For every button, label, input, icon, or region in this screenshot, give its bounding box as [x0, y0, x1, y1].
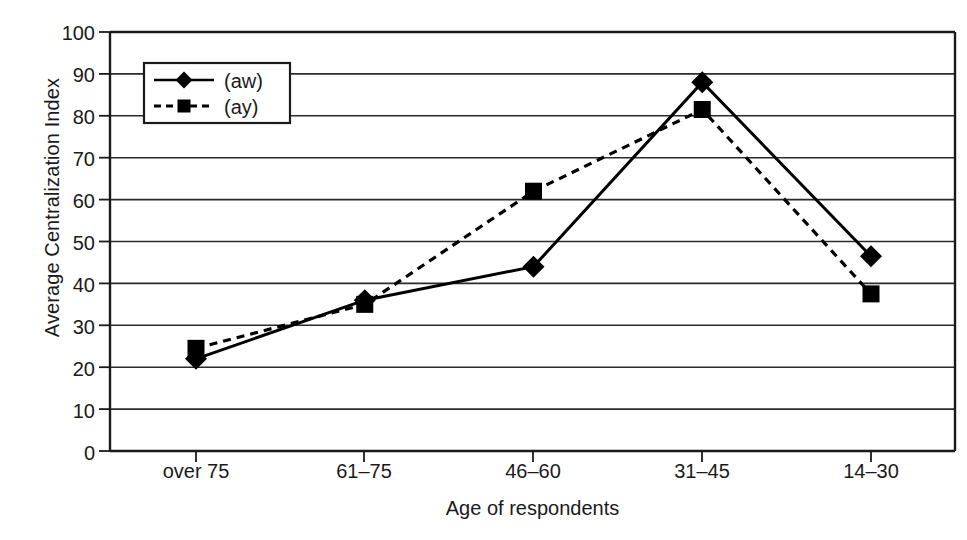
data-point-marker	[188, 340, 205, 357]
x-axis-ticks	[196, 451, 871, 462]
series-line	[196, 82, 871, 359]
legend-label-ay: (ay)	[224, 97, 258, 117]
plot-canvas	[0, 0, 967, 540]
legend	[144, 63, 290, 123]
series-ay	[188, 101, 880, 357]
legend-label-aw: (aw)	[224, 71, 263, 91]
y-axis-ticks	[99, 32, 110, 451]
data-point-marker	[863, 285, 880, 302]
legend-marker-square-ay	[178, 100, 191, 113]
data-point-marker	[525, 183, 542, 200]
data-point-marker	[356, 296, 373, 313]
gridlines	[110, 74, 955, 409]
series-line	[196, 110, 871, 349]
legend-box	[144, 63, 290, 123]
chart-figure: Average Centralization Index Age of resp…	[0, 0, 967, 540]
data-point-marker	[694, 101, 711, 118]
